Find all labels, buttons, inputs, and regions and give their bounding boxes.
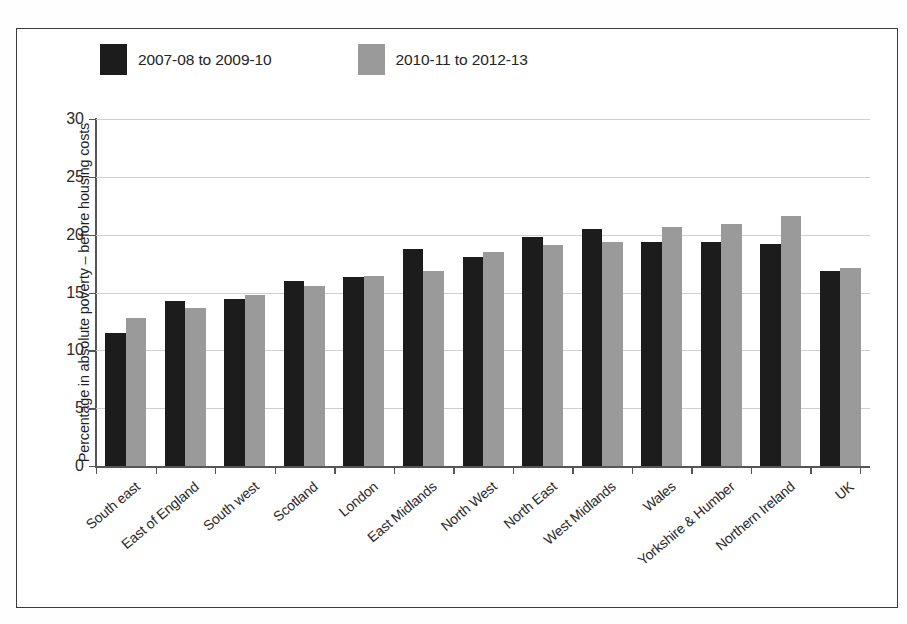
bar-series-1	[582, 229, 603, 466]
bar-group	[760, 119, 801, 466]
y-tick-mark	[89, 235, 96, 236]
bar-series-2	[721, 224, 742, 466]
bar-group	[403, 119, 444, 466]
bar-series-2	[126, 318, 147, 466]
y-tick-mark	[89, 408, 96, 409]
y-tick-mark	[89, 350, 96, 351]
y-tick-label: 30	[66, 110, 84, 128]
bar-series-1	[760, 244, 781, 466]
chart-legend: 2007-08 to 2009-10 2010-11 to 2012-13	[100, 44, 528, 75]
bar-group	[343, 119, 384, 466]
bar-series-1	[701, 242, 722, 466]
bar-series-2	[364, 276, 385, 466]
y-tick-label: 5	[75, 399, 84, 417]
plot-area: Percentage in absolute poverty – before …	[96, 119, 870, 466]
bar-series-1	[522, 237, 543, 466]
bar-series-1	[641, 242, 662, 466]
bar-group	[641, 119, 682, 466]
legend-entry-series-2: 2010-11 to 2012-13	[358, 44, 528, 75]
y-tick-mark	[89, 293, 96, 294]
bar-group	[582, 119, 623, 466]
y-tick-label: 20	[66, 226, 84, 244]
y-tick-label: 15	[66, 284, 84, 302]
bar-series-2	[423, 271, 444, 466]
bar-series-1	[105, 333, 126, 466]
bar-group	[701, 119, 742, 466]
legend-label-series-2: 2010-11 to 2012-13	[396, 51, 528, 69]
legend-label-series-1: 2007-08 to 2009-10	[138, 51, 272, 69]
chart-figure: 2007-08 to 2009-10 2010-11 to 2012-13 Pe…	[0, 0, 907, 624]
legend-entry-series-1: 2007-08 to 2009-10	[100, 44, 272, 75]
bar-series-2	[602, 242, 623, 466]
legend-swatch-series-1	[100, 44, 127, 75]
bar-group	[463, 119, 504, 466]
bar-group	[224, 119, 265, 466]
y-tick-label: 10	[66, 341, 84, 359]
bar-series-1	[403, 249, 424, 466]
y-tick-mark	[89, 466, 96, 467]
legend-swatch-series-2	[358, 44, 385, 75]
bar-group	[165, 119, 206, 466]
bar-group	[522, 119, 563, 466]
bar-group	[284, 119, 325, 466]
y-tick-label: 25	[66, 168, 84, 186]
bar-series-1	[343, 277, 364, 466]
y-tick-label: 0	[75, 457, 84, 475]
bar-group	[105, 119, 146, 466]
x-tick-mark	[96, 466, 97, 474]
y-tick-mark	[89, 119, 96, 120]
y-tick-mark	[89, 177, 96, 178]
